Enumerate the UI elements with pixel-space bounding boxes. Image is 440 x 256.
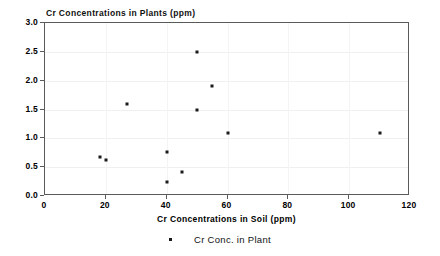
data-point: [126, 102, 129, 105]
y-tick-mark: [40, 22, 44, 23]
x-tick-label: 120: [392, 200, 426, 210]
plot-area: [44, 22, 409, 195]
chart-legend: Cr Conc. in Plant: [0, 234, 440, 245]
y-tick-mark: [40, 109, 44, 110]
y-tick-label: 2.0: [12, 75, 38, 85]
y-tick-mark: [40, 80, 44, 81]
gridline-horizontal: [45, 138, 408, 139]
gridline-horizontal: [45, 52, 408, 53]
x-axis-title: Cr Concentrations in Soil (ppm): [44, 214, 409, 224]
legend-series-label: Cr Conc. in Plant: [194, 234, 271, 245]
gridline-vertical: [349, 23, 350, 194]
data-point: [98, 155, 101, 158]
y-tick-mark: [40, 51, 44, 52]
data-point: [180, 171, 183, 174]
y-tick-label: 1.0: [12, 132, 38, 142]
y-tick-label: 1.5: [12, 104, 38, 114]
x-tick-mark: [287, 195, 288, 199]
gridline-vertical: [106, 23, 107, 194]
dot-marker-icon: [169, 238, 172, 241]
chart-title: Cr Concentrations in Plants (ppm): [46, 8, 195, 18]
gridline-horizontal: [45, 110, 408, 111]
data-point: [378, 131, 381, 134]
x-tick-label: 20: [88, 200, 122, 210]
gridline-vertical: [228, 23, 229, 194]
x-tick-mark: [166, 195, 167, 199]
y-tick-mark: [40, 137, 44, 138]
x-tick-label: 60: [210, 200, 244, 210]
x-tick-label: 80: [270, 200, 304, 210]
x-tick-label: 0: [27, 200, 61, 210]
data-point: [196, 108, 199, 111]
gridline-vertical: [288, 23, 289, 194]
data-point: [165, 151, 168, 154]
data-point: [211, 85, 214, 88]
data-point: [165, 180, 168, 183]
y-tick-mark: [40, 195, 44, 196]
data-point: [226, 131, 229, 134]
x-tick-mark: [348, 195, 349, 199]
x-tick-mark: [227, 195, 228, 199]
y-tick-mark: [40, 166, 44, 167]
gridline-vertical: [167, 23, 168, 194]
y-tick-label: 3.0: [12, 17, 38, 27]
y-tick-label: 0.5: [12, 161, 38, 171]
gridline-horizontal: [45, 167, 408, 168]
scatter-chart-figure: Cr Concentrations in Plants (ppm) 0.00.5…: [0, 0, 440, 256]
y-tick-label: 2.5: [12, 46, 38, 56]
gridline-horizontal: [45, 81, 408, 82]
x-tick-label: 100: [331, 200, 365, 210]
x-tick-label: 40: [149, 200, 183, 210]
x-tick-mark: [105, 195, 106, 199]
y-tick-label: 0.0: [12, 190, 38, 200]
data-point: [104, 159, 107, 162]
data-point: [196, 50, 199, 53]
